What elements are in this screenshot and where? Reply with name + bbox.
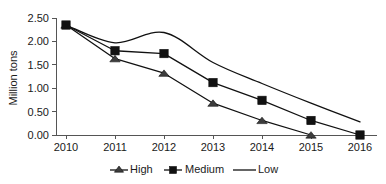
series-line-low xyxy=(66,25,360,122)
x-tick-label-2011: 2011 xyxy=(103,141,127,153)
x-tick-label-2010: 2010 xyxy=(54,141,78,153)
y-tick-label-0.00: 0.00 xyxy=(28,129,49,141)
x-tick-label-2012: 2012 xyxy=(152,141,176,153)
series-low xyxy=(66,25,360,122)
y-tick-label-2.00: 2.00 xyxy=(28,35,49,47)
legend-label-high: High xyxy=(130,163,153,175)
plot-series-group xyxy=(61,21,364,139)
triangle-marker-icon xyxy=(257,117,267,123)
square-marker-icon xyxy=(258,96,266,104)
square-marker-icon xyxy=(356,131,364,139)
square-marker-icon xyxy=(307,116,315,124)
series-line-high xyxy=(66,25,311,135)
square-marker-icon xyxy=(160,49,168,57)
y-axis-title: Million tons xyxy=(7,50,19,106)
x-tick-label-2014: 2014 xyxy=(250,141,274,153)
y-tick-label-1.50: 1.50 xyxy=(28,59,49,71)
triangle-marker-icon xyxy=(114,166,123,172)
chart-canvas: Million tons 2.50 2.00 1.50 1.00 0.50 0.… xyxy=(0,0,386,184)
y-tick-label-2.50: 2.50 xyxy=(28,12,49,24)
line-chart: Million tons 2.50 2.00 1.50 1.00 0.50 0.… xyxy=(0,0,386,184)
x-tick-label-2016: 2016 xyxy=(348,141,372,153)
chart-legend: High Medium Low xyxy=(110,163,278,175)
legend-label-low: Low xyxy=(258,163,278,175)
legend-item-high[interactable]: High xyxy=(110,163,153,175)
legend-item-low[interactable]: Low xyxy=(233,163,278,175)
y-tick-label-1.00: 1.00 xyxy=(28,82,49,94)
legend-item-medium[interactable]: Medium xyxy=(164,163,224,175)
y-tick-label-0.50: 0.50 xyxy=(28,106,49,118)
square-marker-icon xyxy=(209,78,217,86)
square-marker-icon xyxy=(111,47,119,55)
x-tick-label-2015: 2015 xyxy=(299,141,323,153)
x-tick-label-2013: 2013 xyxy=(201,141,225,153)
square-marker-icon xyxy=(170,167,177,174)
series-medium xyxy=(62,21,364,139)
triangle-marker-icon xyxy=(159,70,169,76)
legend-label-medium: Medium xyxy=(185,163,224,175)
